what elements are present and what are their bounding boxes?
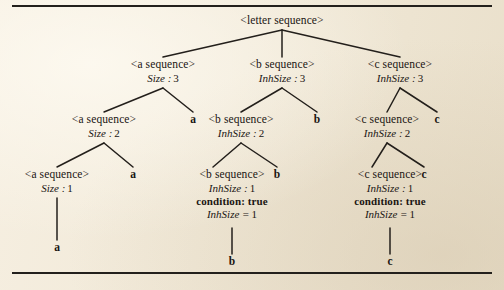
node-label: <c sequence>: [355, 113, 419, 127]
node-b-sequence-3: <b sequence> InhSize :3: [250, 58, 315, 85]
edge-b2-to-b-terminal: [241, 143, 277, 167]
attribute-name: Size: [147, 72, 165, 84]
edge-b3-to-b2: [241, 88, 282, 112]
terminal-a-level2: a: [130, 168, 136, 180]
node-attribute: Size :2: [72, 127, 136, 140]
terminal-b-leaf: b: [229, 255, 235, 267]
terminal-c-level2: c: [421, 168, 426, 180]
node-c-sequence-3: <c sequence> InhSize :3: [368, 58, 432, 85]
equation-name: InhSize: [207, 208, 239, 220]
node-attribute: InhSize :1: [196, 182, 267, 195]
attribute-value: 3: [298, 72, 306, 84]
edge-a3-to-a2: [104, 88, 163, 112]
terminal-c-leaf: c: [387, 255, 392, 267]
node-equation: InhSize =1: [354, 208, 425, 221]
node-attribute: Size :1: [25, 182, 89, 195]
edge-b2-to-b1: [213, 143, 241, 167]
node-label: <c sequence>: [368, 58, 432, 72]
attribute-name: InhSize: [364, 127, 396, 139]
node-label: <b sequence>: [209, 113, 274, 127]
node-c-sequence-2: <c sequence> InhSize :2: [355, 113, 419, 140]
node-c-sequence-1: <c sequence> InhSize :1 condition: true …: [354, 168, 425, 220]
edge-c3-to-c2: [387, 88, 400, 112]
node-label: <b sequence>: [196, 168, 267, 182]
terminal-b-level3: b: [314, 113, 320, 125]
equation-value: 1: [408, 208, 416, 220]
edge-c2-to-c-terminal: [387, 143, 424, 167]
attribute-name: InhSize: [367, 182, 399, 194]
node-a-sequence-1: <a sequence> Size :1: [25, 168, 89, 195]
terminal-a-level3: a: [190, 113, 196, 125]
attribute-name: Size: [41, 182, 59, 194]
node-attribute: InhSize :1: [354, 182, 425, 195]
node-label: <a sequence>: [131, 58, 195, 72]
node-attribute: Size :3: [131, 72, 195, 85]
terminal-a-leaf: a: [54, 241, 60, 253]
attribute-name: InhSize: [259, 72, 291, 84]
attribute-name: InhSize: [377, 72, 409, 84]
node-b-sequence-2: <b sequence> InhSize :2: [209, 113, 274, 140]
edge-root-to-c3: [282, 30, 400, 57]
node-label: <a sequence>: [72, 113, 136, 127]
edge-c3-to-c-terminal: [400, 88, 437, 112]
node-attribute: InhSize :3: [250, 72, 315, 85]
terminal-b-level2: b: [274, 168, 280, 180]
attribute-name: InhSize: [209, 182, 241, 194]
attribute-value: 2: [403, 127, 411, 139]
edge-b3-to-b-terminal: [282, 88, 317, 112]
node-condition: condition: true: [196, 195, 267, 208]
attribute-name: Size: [88, 127, 106, 139]
edge-root-to-a3: [163, 30, 282, 57]
attribute-value: 1: [65, 182, 73, 194]
edge-a2-to-a-terminal: [104, 143, 133, 167]
node-a-sequence-2: <a sequence> Size :2: [72, 113, 136, 140]
node-attribute: InhSize :2: [209, 127, 274, 140]
tree-edges: [0, 0, 504, 290]
edge-c2-to-c1: [372, 143, 387, 167]
attribute-value: 3: [171, 72, 179, 84]
equation-name: InhSize: [365, 208, 397, 220]
edge-a2-to-a1: [57, 143, 104, 167]
attribute-name: InhSize: [218, 127, 250, 139]
node-label: <b sequence>: [250, 58, 315, 72]
attribute-value: 2: [112, 127, 120, 139]
node-root-label: <letter sequence>: [240, 14, 323, 28]
node-b-sequence-1: <b sequence> InhSize :1 condition: true …: [196, 168, 267, 220]
edge-a3-to-a-terminal: [163, 88, 193, 112]
attribute-value: 2: [257, 127, 265, 139]
figure-derivation-tree: <letter sequence> <a sequence> Size :3 <…: [0, 0, 504, 290]
attribute-value: 3: [416, 72, 424, 84]
node-attribute: InhSize :3: [368, 72, 432, 85]
node-condition: condition: true: [354, 195, 425, 208]
terminal-c-level3: c: [434, 113, 439, 125]
node-label: <a sequence>: [25, 168, 89, 182]
attribute-value: 1: [248, 182, 256, 194]
node-label: <c sequence>: [354, 168, 425, 182]
attribute-value: 1: [406, 182, 414, 194]
node-attribute: InhSize :2: [355, 127, 419, 140]
node-a-sequence-3: <a sequence> Size :3: [131, 58, 195, 85]
node-equation: InhSize =1: [196, 208, 267, 221]
equation-value: 1: [250, 208, 258, 220]
node-root: <letter sequence>: [240, 14, 323, 28]
